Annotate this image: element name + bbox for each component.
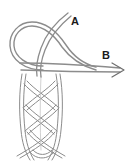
label-b: B [102,50,110,61]
braid-body [17,74,65,160]
knot-illustration [0,0,129,166]
knot-diagram: A B [0,0,129,166]
strand-b [20,63,120,72]
direction-arrow [112,63,124,77]
label-a: A [71,16,79,27]
